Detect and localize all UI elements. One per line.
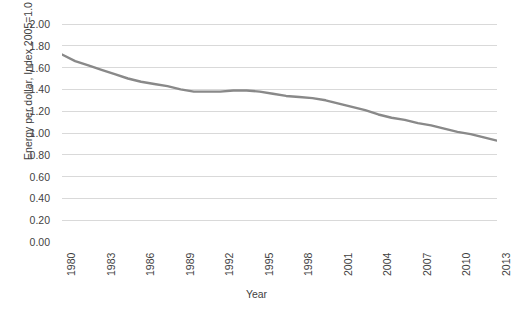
x-axis-tick-label: 1995 [264, 253, 275, 276]
plot-area [62, 24, 497, 242]
x-axis-tick-label: 2004 [382, 253, 393, 276]
y-axis-tick-label: 0.20 [30, 215, 50, 225]
x-axis-tick-label: 2001 [343, 253, 354, 276]
x-axis-tick-label: 2010 [461, 253, 472, 276]
x-axis-tick-label: 1992 [224, 253, 235, 276]
y-axis-tick-label: 0.40 [30, 193, 50, 203]
x-axis-tick-label: 1983 [106, 253, 117, 276]
x-axis-tick-label: 1980 [66, 253, 77, 276]
y-axis-tick-label: 0.60 [30, 172, 50, 182]
energy-intensity-line-chart: 0.000.200.400.600.801.001.201.401.601.80… [0, 0, 513, 311]
plot-svg [62, 24, 497, 242]
x-axis-tick-labels: 1980198319861989199219951998200120042007… [62, 246, 497, 286]
x-axis-tick-label: 1989 [185, 253, 196, 276]
y-axis-tick-label: 0.00 [30, 237, 50, 247]
x-axis-title: Year [0, 288, 513, 300]
gridlines [62, 24, 497, 242]
x-axis-tick-label: 1998 [303, 253, 314, 276]
x-axis-tick-label: 2013 [501, 253, 512, 276]
x-axis-tick-label: 1986 [145, 253, 156, 276]
x-axis-tick-label: 2007 [422, 253, 433, 276]
y-axis-title: Energy per dollar, Index 2005=1.0 [22, 0, 34, 166]
